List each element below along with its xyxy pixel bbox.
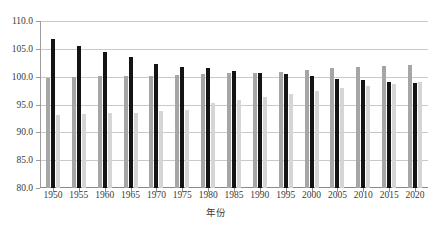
- x-axis-tick-label: 1960: [95, 190, 114, 200]
- bar-series-2-2000: [310, 76, 314, 188]
- x-axis-tick-label: 2005: [328, 190, 347, 200]
- x-axis-tick-label: 1995: [276, 190, 295, 200]
- y-axis-tick-label: 80.0: [16, 183, 33, 193]
- bar-group: [247, 21, 273, 188]
- bar-series-1-2020: [408, 65, 412, 188]
- x-axis-tick-label: 2000: [302, 190, 321, 200]
- bar-series-1-1955: [72, 77, 76, 188]
- bar-series-1-2015: [382, 66, 386, 188]
- y-axis-tick-label: 95.0: [16, 100, 33, 110]
- bar-series-3-1975: [185, 110, 189, 188]
- bar-group: [402, 21, 428, 188]
- bar-series-2-1970: [154, 64, 158, 188]
- y-axis-tick-label: 90.0: [16, 127, 33, 137]
- bar-series-1-2000: [305, 70, 309, 188]
- bar-series-2-1950: [51, 39, 55, 188]
- bar-series-3-2010: [366, 86, 370, 188]
- x-axis-tick-label: 1965: [121, 190, 140, 200]
- bar-series-3-2005: [340, 88, 344, 188]
- bar-series-3-1990: [263, 97, 267, 188]
- bar-series-2-1955: [77, 46, 81, 189]
- x-axis-tick-label: 2015: [380, 190, 399, 200]
- y-axis-tick-label: 100.0: [12, 72, 33, 82]
- y-axis-tickmark: [36, 77, 40, 78]
- x-axis-tick-label: 2020: [406, 190, 425, 200]
- x-axis-tick-label: 2010: [354, 190, 373, 200]
- bar-series-2-2010: [361, 80, 365, 188]
- bar-series-1-1990: [253, 73, 257, 188]
- bar-group: [376, 21, 402, 188]
- x-axis-tick-label: 1955: [69, 190, 88, 200]
- bar-series-3-1955: [82, 114, 86, 188]
- y-axis-tick-label: 85.0: [16, 155, 33, 165]
- bar-series-2-1985: [232, 71, 236, 188]
- bar-series-3-1980: [211, 103, 215, 188]
- bar-series-2-1975: [180, 67, 184, 188]
- bar-group: [92, 21, 118, 188]
- x-axis-tick-label: 1980: [199, 190, 218, 200]
- bar-series-3-2015: [392, 84, 396, 188]
- y-axis-tickmark: [36, 188, 40, 189]
- bar-group: [221, 21, 247, 188]
- x-axis-tick-label: 1990: [250, 190, 269, 200]
- bar-series-3-2000: [315, 91, 319, 188]
- bar-series-3-1970: [159, 111, 163, 188]
- x-axis-tick-label: 1950: [43, 190, 62, 200]
- bar-series-3-1985: [237, 100, 241, 188]
- x-axis-labels: 1950195519601965197019751980198519901995…: [40, 190, 428, 206]
- y-axis-tickmark: [36, 132, 40, 133]
- bar-series-1-1985: [227, 73, 231, 188]
- y-axis-tickmark: [36, 105, 40, 106]
- x-axis-tick-label: 1985: [225, 190, 244, 200]
- bar-group: [169, 21, 195, 188]
- y-axis-tickmark: [36, 49, 40, 50]
- bar-series-1-1975: [175, 75, 179, 188]
- y-axis-tick-label: 110.0: [12, 16, 33, 26]
- bar-series-2-2005: [335, 79, 339, 188]
- bar-series-2-1965: [129, 57, 133, 188]
- bar-series-3-1965: [134, 113, 138, 188]
- x-axis-tick-label: 1975: [173, 190, 192, 200]
- chart-title: [0, 0, 431, 3]
- y-axis-labels: 110.0105.0100.095.090.085.080.0: [0, 0, 38, 235]
- bar-series-1-1965: [124, 76, 128, 188]
- bar-group: [350, 21, 376, 188]
- plot-area: [40, 21, 428, 188]
- bar-series-1-2010: [356, 67, 360, 188]
- bar-series-2-2020: [413, 83, 417, 188]
- bar-group: [273, 21, 299, 188]
- y-axis-tick-label: 105.0: [12, 44, 33, 54]
- bar-series-2-2015: [387, 82, 391, 188]
- bar-series-2-1990: [258, 73, 262, 188]
- bar-series-3-2020: [418, 82, 422, 188]
- chart-root: 110.0105.0100.095.090.085.080.0 19501955…: [0, 0, 431, 235]
- bar-series-3-1950: [56, 115, 60, 188]
- bar-group: [40, 21, 66, 188]
- y-axis-tickmark: [36, 160, 40, 161]
- bar-series-1-1950: [46, 78, 50, 188]
- bar-series-2-1980: [206, 68, 210, 188]
- bar-groups: [40, 21, 428, 188]
- bar-group: [195, 21, 221, 188]
- bar-group: [325, 21, 351, 188]
- bar-series-1-1970: [149, 76, 153, 188]
- x-axis-title: 年份: [0, 205, 431, 219]
- bar-series-3-1960: [108, 113, 112, 188]
- y-axis-tickmark: [36, 21, 40, 22]
- bar-series-1-1960: [98, 76, 102, 188]
- bar-group: [66, 21, 92, 188]
- x-axis-tick-label: 1970: [147, 190, 166, 200]
- bar-group: [118, 21, 144, 188]
- bar-series-1-1980: [201, 74, 205, 188]
- bar-series-1-2005: [330, 68, 334, 188]
- bar-series-1-1995: [279, 72, 283, 188]
- bar-group: [299, 21, 325, 188]
- bar-group: [143, 21, 169, 188]
- bar-series-2-1995: [284, 74, 288, 188]
- bar-series-3-1995: [289, 94, 293, 188]
- bar-series-2-1960: [103, 52, 107, 188]
